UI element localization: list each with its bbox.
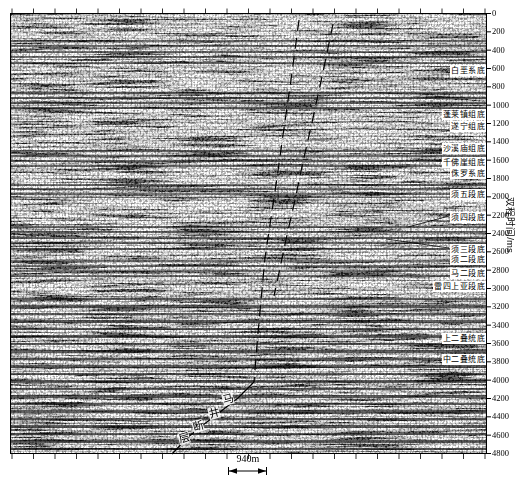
y-axis-tick-label: 4400: [492, 412, 509, 421]
y-axis-tick-label: 4600: [492, 431, 509, 440]
y-axis-tick-label: 2000: [492, 192, 509, 201]
y-axis-tick-label: 2800: [492, 266, 509, 275]
y-axis-tick-label: 4000: [492, 376, 509, 385]
y-axis-tick-label: 200: [492, 27, 505, 36]
y-axis-tick-label: 3000: [492, 284, 509, 293]
y-axis-tick-label: 600: [492, 64, 505, 73]
y-axis-tick-label: 3600: [492, 339, 509, 348]
y-axis-tick-label: 1600: [492, 156, 509, 165]
y-axis-tick-label: 800: [492, 82, 505, 91]
y-axis-tick-label: 1800: [492, 174, 509, 183]
y-axis-title: 双程时间/ms: [504, 197, 518, 252]
y-axis-tick-label: 0: [492, 9, 496, 18]
y-axis-tick-label: 3400: [492, 321, 509, 330]
y-axis-tick-label: 4800: [492, 449, 509, 458]
scale-bar-arrow-right: [258, 468, 266, 473]
trace-columns-overlay: [11, 14, 486, 453]
scale-bar-arrow-left: [229, 468, 237, 473]
y-axis-tick-label: 2600: [492, 247, 509, 256]
y-axis-tick-label: 3200: [492, 302, 509, 311]
y-axis-tick-label: 4200: [492, 394, 509, 403]
y-axis-tick-label: 1400: [492, 137, 509, 146]
y-axis-tick-label: 1000: [492, 101, 509, 110]
seismic-figure: 双程时间/ms 940m 020040060080010001200140016…: [0, 0, 531, 487]
y-axis-tick-label: 2400: [492, 229, 509, 238]
y-axis-tick-label: 1200: [492, 119, 509, 128]
scale-bar-label: 940m: [231, 453, 265, 464]
y-axis-tick-label: 400: [492, 46, 505, 55]
seismic-panel: [10, 13, 487, 454]
y-axis-tick-label: 3800: [492, 357, 509, 366]
y-axis-tick-label: 2200: [492, 211, 509, 220]
